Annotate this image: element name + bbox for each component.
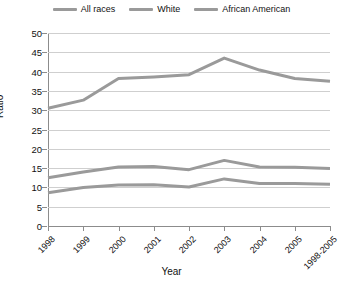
x-axis-tick	[119, 226, 120, 231]
y-axis-tick-label: 50	[18, 28, 42, 39]
legend-label-african-american: African American	[222, 4, 290, 14]
y-axis-title: Ratio	[0, 95, 5, 118]
y-axis-tick	[42, 110, 47, 111]
y-axis-tick-label: 15	[18, 163, 42, 174]
x-axis-tick	[224, 226, 225, 231]
legend-swatch-african-american	[194, 8, 218, 11]
y-axis-tick	[42, 130, 47, 131]
y-axis-tick-label: 35	[18, 85, 42, 96]
x-axis-tick	[295, 226, 296, 231]
y-axis-tick	[42, 72, 47, 73]
x-axis-tick	[189, 226, 190, 231]
y-axis-tick	[42, 149, 47, 150]
legend-label-all-races: All races	[81, 4, 116, 14]
x-axis-tick	[83, 226, 84, 231]
legend-item-white[interactable]: White	[129, 4, 180, 14]
y-axis-tick	[42, 33, 47, 34]
x-axis-tick	[330, 226, 331, 231]
legend-swatch-white	[129, 8, 153, 11]
y-axis-tick-label: 30	[18, 105, 42, 116]
legend-label-white: White	[157, 4, 180, 14]
y-axis-tick	[42, 187, 47, 188]
y-axis-tick-label: 20	[18, 143, 42, 154]
series-line	[48, 179, 330, 193]
y-axis-tick-label: 25	[18, 124, 42, 135]
plot-area	[48, 33, 330, 226]
y-axis-tick	[42, 91, 47, 92]
x-axis-tick	[48, 226, 49, 231]
chart-legend: All races White African American	[0, 4, 343, 14]
series-lines	[48, 33, 330, 226]
legend-item-all-races[interactable]: All races	[53, 4, 116, 14]
y-axis-tick-label: 5	[18, 201, 42, 212]
y-axis-tick-label: 0	[18, 221, 42, 232]
series-line	[48, 160, 330, 177]
y-axis-tick-label: 10	[18, 182, 42, 193]
y-axis-tick-label: 45	[18, 47, 42, 58]
y-axis-tick	[42, 207, 47, 208]
y-axis-tick	[42, 168, 47, 169]
x-axis-tick	[260, 226, 261, 231]
y-axis-tick	[42, 226, 47, 227]
line-chart: All races White African American Ratio Y…	[0, 0, 343, 287]
series-line	[48, 58, 330, 108]
y-axis-tick	[42, 52, 47, 53]
x-axis-tick	[154, 226, 155, 231]
y-axis-tick-label: 40	[18, 66, 42, 77]
legend-item-african-american[interactable]: African American	[194, 4, 290, 14]
legend-swatch-all-races	[53, 8, 77, 11]
